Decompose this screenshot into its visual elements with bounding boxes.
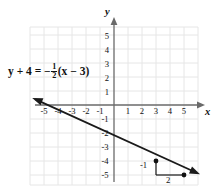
y-tick-label: -5 — [97, 170, 113, 180]
fraction-denominator: 2 — [51, 71, 57, 80]
y-axis-label: y — [105, 6, 110, 17]
y-tick-label: -1 — [97, 114, 113, 124]
equation-lhs: y + 4 = — [8, 65, 41, 77]
y-tick-label: 2 — [99, 73, 115, 83]
y-axis-arrow — [111, 17, 118, 25]
slope-run-label: 2 — [166, 175, 170, 185]
equation-minus: − — [44, 65, 51, 77]
data-point — [182, 173, 187, 178]
y-tick-label: -2 — [97, 128, 113, 138]
equation-rhs: (x − 3) — [58, 65, 89, 77]
y-tick-label: -4 — [97, 156, 113, 166]
x-axis-arrow — [197, 102, 205, 109]
y-tick-label: 5 — [99, 31, 115, 41]
y-tick-label: 3 — [99, 59, 115, 69]
equation-label: y + 4 = −12(x − 3) — [8, 63, 89, 81]
equation-fraction: 12 — [51, 63, 57, 81]
slope-rise-label: -1 — [140, 160, 147, 170]
x-tick-label: 5 — [176, 106, 192, 116]
line-arrow-left — [32, 98, 43, 105]
y-tick-label: 1 — [99, 87, 115, 97]
y-tick-label: 4 — [99, 45, 115, 55]
fraction-numerator: 1 — [51, 63, 57, 71]
y-tick-label: -3 — [97, 142, 113, 152]
axes — [35, 17, 205, 182]
x-axis-label: x — [205, 106, 210, 117]
data-point — [154, 159, 159, 164]
